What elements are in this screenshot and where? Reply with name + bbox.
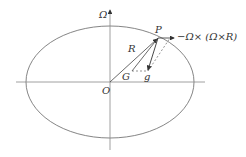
point-g-label: G: [122, 72, 130, 82]
omega-axis-label: Ω: [99, 10, 107, 20]
origin-label: O: [102, 86, 110, 96]
centrifugal-label: −Ω× (Ω×R): [177, 32, 237, 42]
diagram-canvas: Ω P R G g O −Ω× (Ω×R): [0, 0, 246, 157]
point-p-label: P: [155, 25, 162, 35]
vector-g-label: g: [144, 72, 150, 82]
vector-r-label: R: [128, 44, 136, 54]
dashed-line: [148, 38, 170, 71]
